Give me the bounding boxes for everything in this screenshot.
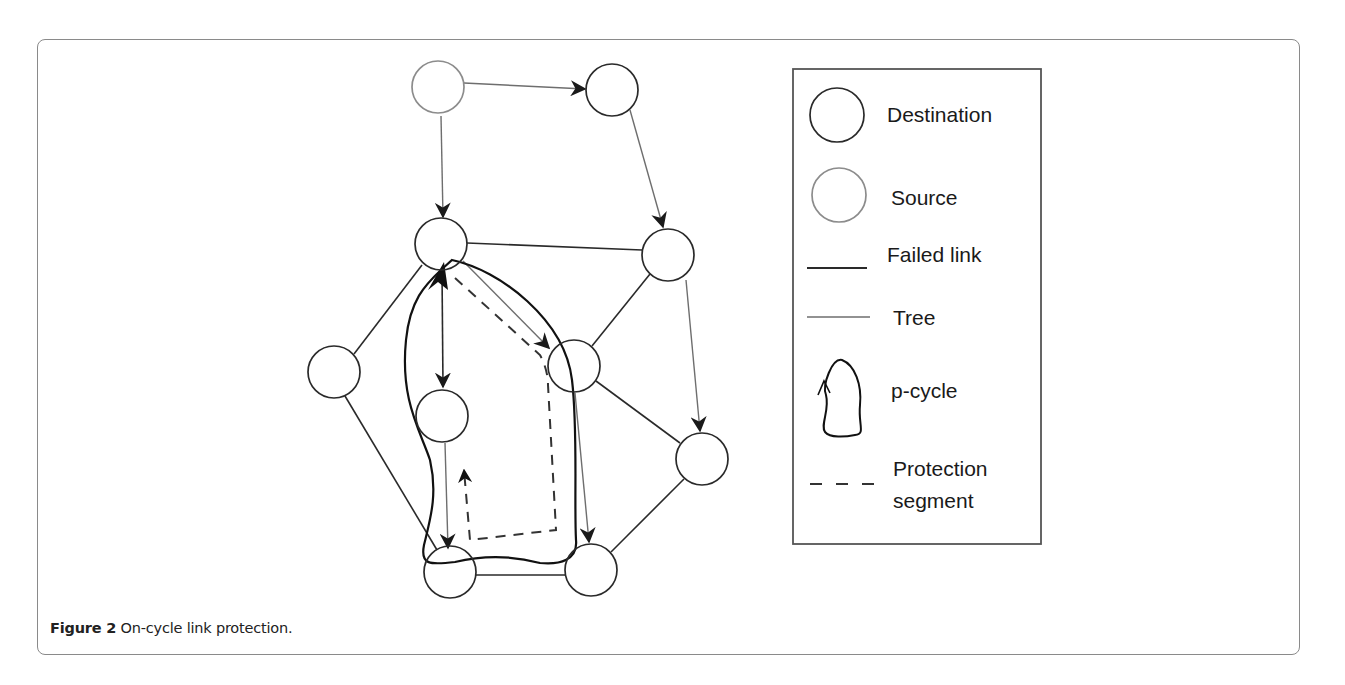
caption-label: Figure 2 — [50, 620, 116, 636]
tree-n1-n3 — [441, 116, 443, 217]
node-destination — [548, 340, 600, 392]
p-cycle — [405, 260, 576, 563]
node-destination — [565, 544, 617, 596]
tree-n6-n9 — [445, 443, 448, 548]
plain-links — [345, 243, 684, 575]
link-n3-n4 — [467, 243, 642, 250]
tree-n1-n2 — [464, 83, 585, 89]
node-destination — [642, 229, 694, 281]
nodes — [308, 61, 728, 598]
caption-text: On-cycle link protection. — [121, 620, 293, 636]
tree-n7-n10 — [575, 393, 589, 542]
node-destination — [415, 218, 467, 270]
legend-label-protection: Protection — [893, 457, 988, 480]
tree-n3-n7 — [463, 261, 549, 348]
link-n8-n10 — [611, 479, 684, 552]
node-destination — [308, 346, 360, 398]
tree-links — [441, 83, 700, 548]
legend-label-source: Source — [891, 186, 958, 209]
legend-label-tree: Tree — [893, 306, 935, 329]
legend: Destination Source Failed link Tree p-cy… — [793, 69, 1041, 544]
link-n7-n8 — [596, 381, 680, 443]
legend-label-failed-link: Failed link — [887, 243, 982, 266]
legend-label-segment: segment — [893, 489, 974, 512]
network-diagram: Destination Source Failed link Tree p-cy… — [0, 0, 1345, 685]
node-destination — [586, 64, 638, 116]
node-source — [412, 61, 464, 113]
protection-segment — [455, 278, 556, 540]
node-destination — [424, 546, 476, 598]
node-destination — [676, 433, 728, 485]
link-n4-n7 — [592, 274, 650, 346]
legend-label-destination: Destination — [887, 103, 992, 126]
tree-n4-n8 — [686, 280, 700, 431]
figure-caption: Figure 2 On-cycle link protection. — [50, 620, 292, 636]
link-n5-n9 — [345, 396, 437, 550]
node-destination — [416, 390, 468, 442]
legend-label-p-cycle: p-cycle — [891, 379, 958, 402]
failed-link-n3-n6 — [442, 271, 443, 387]
tree-n2-n4 — [630, 110, 663, 227]
